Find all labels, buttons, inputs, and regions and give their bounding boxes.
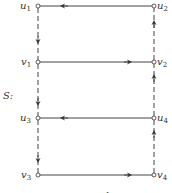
- label-v4: v4: [157, 169, 168, 182]
- figure-caption: FIGURE 12.3: [62, 191, 127, 193]
- label-v1: v1: [21, 56, 31, 69]
- node-u1: [36, 4, 40, 8]
- label-u1: u1: [20, 0, 31, 13]
- node-u4: [152, 116, 156, 120]
- node-u2: [152, 4, 156, 8]
- label-v2: v2: [157, 56, 167, 69]
- digraph-figure: u1 u2 v1 v2 u3 u4 v3 v4 S: FIGURE 12.3: [0, 0, 172, 193]
- node-u3: [36, 116, 40, 120]
- label-u2: u2: [157, 0, 168, 13]
- node-v3: [36, 173, 40, 177]
- label-v3: v3: [21, 169, 31, 182]
- node-v1: [36, 60, 40, 64]
- node-v4: [152, 173, 156, 177]
- node-v2: [152, 60, 156, 64]
- label-u3: u3: [20, 112, 31, 125]
- label-u4: u4: [157, 112, 168, 125]
- graph-label: S:: [3, 90, 13, 101]
